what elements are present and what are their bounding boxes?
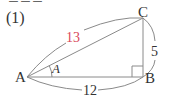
dimension-arc-ab-left <box>27 77 82 90</box>
angle-label-a: A <box>51 61 60 76</box>
vertex-label-b: B <box>145 70 155 86</box>
side-ac <box>27 18 143 77</box>
side-label-ac: 13 <box>66 30 80 45</box>
side-label-bc: 5 <box>151 44 158 59</box>
dimension-arc-ab-right <box>98 77 143 90</box>
right-triangle-diagram: A B C 13 12 5 A <box>0 0 176 106</box>
vertex-label-c: C <box>138 4 148 20</box>
dimension-arc-bc-top <box>143 18 155 41</box>
right-angle-mark <box>132 66 143 77</box>
vertex-label-a: A <box>15 69 26 85</box>
side-label-ab: 12 <box>83 83 97 98</box>
dimension-arc-ac-right <box>84 18 143 30</box>
